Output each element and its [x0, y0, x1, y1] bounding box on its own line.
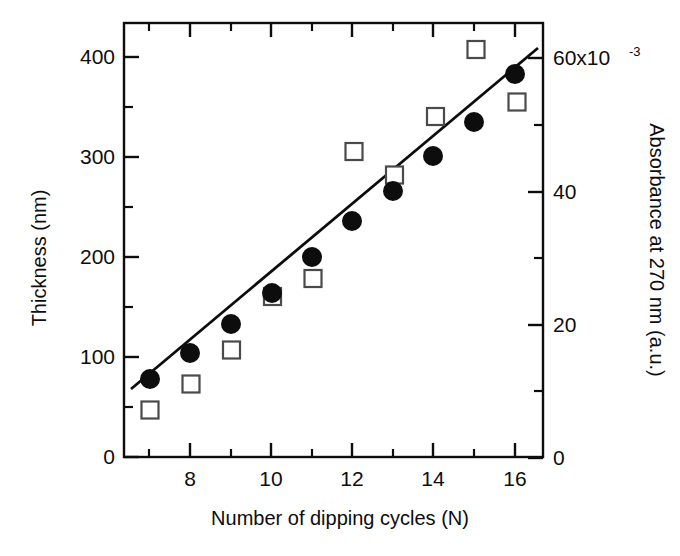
y2-tick-label-0: 0: [553, 446, 565, 469]
x-tick-label-10: 10: [259, 467, 282, 490]
y2-tick-label-60-exponent: -3: [629, 44, 641, 59]
y-tick-label-200: 200: [80, 245, 115, 268]
y-axis-title: Thickness (nm): [28, 190, 50, 327]
x-axis-major-ticks: [190, 443, 515, 457]
top-axis-major-ticks: [190, 23, 515, 37]
figure-container: 0 100 200 300 400 0 20 40 60x10 -3: [0, 0, 680, 556]
series-thickness: [140, 64, 525, 389]
data-point-square: [346, 143, 363, 160]
data-point-square: [427, 108, 444, 125]
fit-line: [131, 48, 538, 389]
x-tick-label-16: 16: [503, 467, 526, 490]
data-point-square: [468, 41, 485, 58]
data-point-square: [183, 376, 200, 393]
y-tick-label-300: 300: [80, 145, 115, 168]
x-tick-label-14: 14: [421, 467, 445, 490]
data-point-circle: [140, 369, 160, 389]
data-point-circle: [383, 181, 403, 201]
data-point-square: [386, 167, 403, 184]
data-point-circle: [221, 314, 241, 334]
data-point-circle: [423, 146, 443, 166]
y2-tick-label-60-base: 60x10: [553, 46, 610, 69]
y-tick-label-400: 400: [80, 45, 115, 68]
left-axis-major-ticks: [124, 57, 139, 457]
series-absorbance: [142, 41, 526, 419]
data-point-square: [509, 94, 526, 111]
scatter-plot: 0 100 200 300 400 0 20 40 60x10 -3: [0, 0, 680, 556]
data-point-circle: [464, 112, 484, 132]
y2-tick-label-20: 20: [553, 313, 576, 336]
x-axis-minor-ticks: [149, 449, 474, 457]
data-point-square: [223, 342, 240, 359]
data-point-square: [142, 402, 159, 419]
y-tick-label-0: 0: [103, 445, 115, 468]
data-point-square: [305, 270, 322, 287]
y-tick-label-100: 100: [80, 345, 115, 368]
data-point-circle: [302, 247, 322, 267]
x-tick-label-8: 8: [184, 467, 196, 490]
data-point-circle: [505, 64, 525, 84]
y2-tick-label-60-group: 60x10 -3: [553, 44, 641, 69]
data-point-circle: [180, 343, 200, 363]
right-axis-minor-ticks: [534, 125, 543, 391]
data-point-circle: [262, 283, 282, 303]
y2-tick-label-40: 40: [553, 180, 576, 203]
y2-axis-title: Absorbance at 270 nm (a.u.): [646, 123, 668, 376]
data-point-circle: [342, 211, 362, 231]
x-tick-label-12: 12: [340, 467, 363, 490]
x-axis-title: Number of dipping cycles (N): [211, 507, 469, 529]
